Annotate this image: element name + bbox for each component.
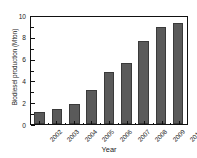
x-tick-label: 2002 [48,128,63,143]
x-tick-mark [144,121,145,125]
bar-slot [135,17,152,124]
x-tick-minor-mark [170,123,171,126]
x-tick-mark [179,121,180,125]
x-tick-mark [91,121,92,125]
x-tick-minor-mark [83,123,84,126]
x-tick-mark [109,121,110,125]
x-tick-mark [39,121,40,125]
y-tick-minor-mark [31,49,34,50]
y-tick-mark [31,81,35,82]
x-tick-minor-mark [135,123,136,126]
y-tick-minor-mark [31,114,34,115]
bar-2008 [138,41,148,124]
y-tick-mark [31,60,35,61]
bar-slot [170,17,187,124]
x-tick-minor-mark [100,123,101,126]
x-tick-label: 2009 [171,128,186,143]
y-axis-title: Biodiesel production (Mton) [9,2,20,132]
bar-2006 [104,72,114,124]
bar-slot [83,17,100,124]
x-axis-title: Year [30,145,188,154]
y-tick-label: 0 [4,122,26,129]
y-tick-mark [31,38,35,39]
y-tick-label: 6 [4,56,26,63]
x-tick-minor-mark [48,123,49,126]
x-tick-mark [56,121,57,125]
bar-slot [48,17,65,124]
bar-slot [118,17,135,124]
bar-2007 [121,63,131,124]
plot-area [30,16,188,125]
bar-2010 [173,23,183,124]
bar-slot [31,17,48,124]
y-tick-mark [31,16,35,17]
bar-2005 [86,90,96,124]
y-tick-label: 10 [4,13,26,20]
y-tick-minor-mark [31,27,34,28]
x-tick-minor-mark [153,123,154,126]
x-tick-mark [162,121,163,125]
bar-slot [66,17,83,124]
x-tick-mark [74,121,75,125]
x-tick-mark [127,121,128,125]
x-tick-label: 2008 [153,128,168,143]
y-tick-label: 8 [4,34,26,41]
bar-2009 [156,27,166,124]
x-tick-label: 2005 [101,128,116,143]
y-tick-minor-mark [31,92,34,93]
y-tick-minor-mark [31,71,34,72]
bar-series [31,17,187,124]
x-tick-label: 2006 [118,128,133,143]
x-tick-label: 2004 [83,128,98,143]
x-tick-minor-mark [65,123,66,126]
x-tick-label: 2007 [136,128,151,143]
bar-slot [152,17,169,124]
y-tick-mark [31,125,35,126]
y-tick-mark [31,103,35,104]
x-tick-minor-mark [118,123,119,126]
x-tick-label: 2003 [65,128,80,143]
y-tick-label: 2 [4,100,26,107]
bar-slot [100,17,117,124]
chart-figure: Biodiesel production (Mton) 0246810 2002… [0,0,197,158]
y-tick-label: 4 [4,78,26,85]
x-tick-label: 2010 [188,128,197,143]
